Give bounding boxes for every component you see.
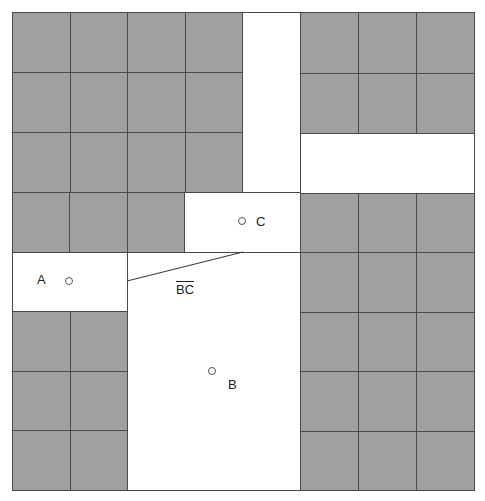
- gray-block-mid-left: [13, 193, 185, 253]
- point-b-marker: [209, 368, 216, 375]
- region-vertical-corridor: [243, 13, 301, 194]
- segment-label-bc: BC: [176, 283, 194, 296]
- point-label-a: A: [37, 273, 46, 286]
- point-label-c: C: [256, 215, 265, 228]
- gray-block-bottom-right: [301, 194, 475, 491]
- point-c-marker: [239, 218, 246, 225]
- floor-plan-svg: [0, 0, 485, 501]
- point-label-b: B: [228, 378, 237, 391]
- point-a-marker: [66, 278, 73, 285]
- floor-plan-diagram: ABCBC: [0, 0, 485, 501]
- region-right-band: [301, 134, 475, 194]
